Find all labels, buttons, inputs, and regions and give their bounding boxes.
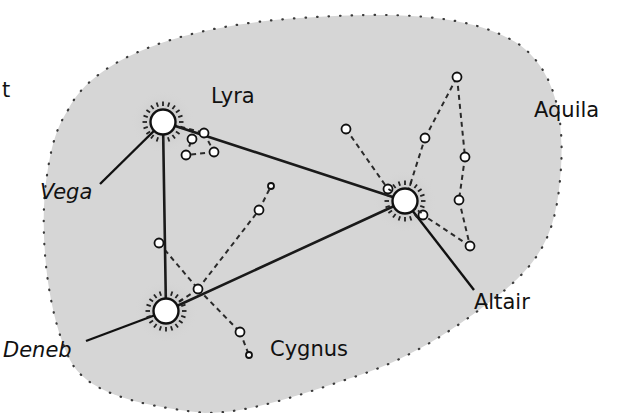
aquila-star-icon: [455, 196, 464, 205]
edge-fragment-text: t: [2, 80, 10, 101]
cygnus-star-icon: [155, 239, 164, 248]
aquila-star-icon: [421, 134, 430, 143]
cygnus-star-icon: [268, 183, 274, 189]
aquila-star-icon: [466, 242, 475, 251]
star-label-altair: Altair: [474, 292, 530, 313]
aquila-star-icon: [453, 73, 462, 82]
constellation-label-aquila: Aquila: [534, 100, 599, 121]
lyra-star-icon: [182, 151, 191, 160]
constellation-label-lyra: Lyra: [211, 86, 255, 107]
lyra-star-icon: [188, 135, 197, 144]
cygnus-star-icon: [246, 352, 252, 358]
lyra-star-icon: [200, 129, 209, 138]
aquila-star-icon: [384, 185, 393, 194]
lyra-star-icon: [210, 148, 219, 157]
cygnus-star-icon: [255, 206, 264, 215]
star-label-deneb: Deneb: [3, 340, 72, 361]
constellation-label-cygnus: Cygnus: [270, 339, 348, 360]
cygnus-star-icon: [194, 285, 203, 294]
star-label-vega: Vega: [40, 182, 92, 203]
aquila-star-icon: [461, 153, 470, 162]
cygnus-star-icon: [236, 328, 245, 337]
aquila-star-icon: [342, 125, 351, 134]
